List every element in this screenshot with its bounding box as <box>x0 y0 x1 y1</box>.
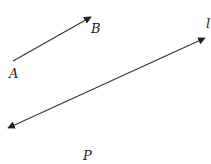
label-a: A <box>8 66 18 81</box>
line-l-double-arrow <box>8 38 205 128</box>
label-p: P <box>82 148 92 163</box>
vector-ab <box>13 17 91 61</box>
diagram-canvas: A B l P <box>0 0 211 164</box>
label-b: B <box>90 21 101 36</box>
label-l: l <box>206 16 210 31</box>
vector-ab-arrow <box>13 17 91 61</box>
line-l <box>8 38 205 128</box>
